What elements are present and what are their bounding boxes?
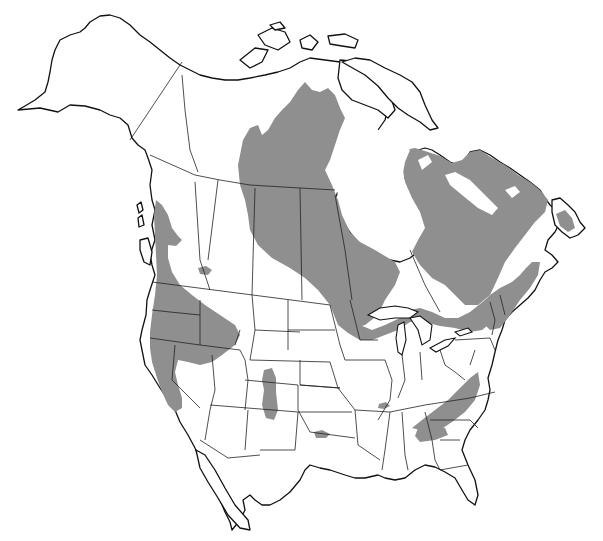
- coastal-island: [137, 202, 143, 213]
- range-map: [0, 0, 603, 541]
- arctic-island: [328, 34, 358, 48]
- coastal-island: [138, 215, 144, 227]
- arctic-island: [240, 48, 268, 68]
- arctic-island: [258, 28, 290, 50]
- vancouver-island: [140, 238, 152, 265]
- arctic-island: [300, 35, 318, 50]
